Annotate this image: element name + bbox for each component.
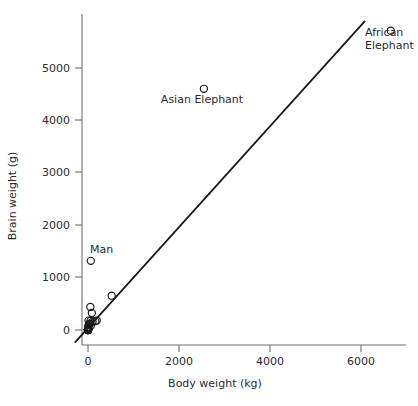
data-point bbox=[108, 292, 115, 299]
annotation-man: Man bbox=[90, 243, 113, 256]
x-tick-label-6000: 6000 bbox=[347, 355, 375, 368]
annotation-asian-elephant: Asian Elephant bbox=[161, 93, 244, 106]
annotation-african-elephant-line1: African bbox=[365, 26, 403, 39]
x-axis-ticks bbox=[88, 345, 361, 352]
point-annotations: African Elephant Asian Elephant Man bbox=[90, 26, 414, 256]
y-axis-ticks bbox=[75, 68, 82, 330]
y-tick-label-1000: 1000 bbox=[42, 271, 70, 284]
annotation-african-elephant-line2: Elephant bbox=[365, 39, 414, 52]
y-axis-title: Brain weight (g) bbox=[6, 152, 19, 240]
y-tick-label-4000: 4000 bbox=[42, 114, 70, 127]
regression-fit-line bbox=[75, 21, 364, 342]
y-axis-tick-labels: 0 1000 2000 3000 4000 5000 bbox=[42, 62, 70, 337]
y-tick-label-2000: 2000 bbox=[42, 219, 70, 232]
brain-vs-body-weight-scatter-figure: 0 1000 2000 3000 4000 5000 0 2000 4000 6… bbox=[0, 0, 418, 406]
x-axis-tick-labels: 0 2000 4000 6000 bbox=[85, 355, 376, 368]
data-point-asian-elephant bbox=[200, 85, 207, 92]
data-point-man bbox=[87, 257, 94, 264]
x-tick-label-0: 0 bbox=[85, 355, 92, 368]
x-axis-title: Body weight (kg) bbox=[168, 377, 262, 390]
x-tick-label-2000: 2000 bbox=[165, 355, 193, 368]
y-tick-label-3000: 3000 bbox=[42, 166, 70, 179]
plot-canvas: 0 1000 2000 3000 4000 5000 0 2000 4000 6… bbox=[0, 0, 418, 406]
x-tick-label-4000: 4000 bbox=[256, 355, 284, 368]
scatter-markers bbox=[84, 27, 394, 334]
y-tick-label-5000: 5000 bbox=[42, 62, 70, 75]
y-tick-label-0: 0 bbox=[63, 324, 70, 337]
